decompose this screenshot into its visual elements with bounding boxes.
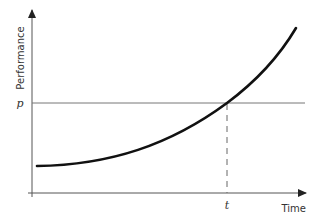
y-axis-label: Performance (15, 26, 26, 89)
performance-curve (37, 28, 296, 166)
x-axis-label: Time (281, 203, 306, 214)
x-tick-t: t (225, 199, 230, 212)
performance-chart: Performance Time p t (0, 0, 319, 222)
y-tick-p: p (16, 97, 23, 110)
